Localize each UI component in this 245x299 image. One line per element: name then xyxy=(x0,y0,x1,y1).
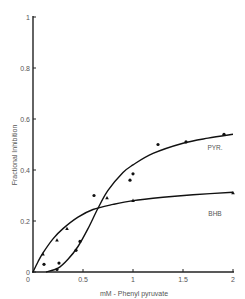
y-tick-label: 0.2 xyxy=(20,218,30,225)
x-axis-label: mM - Phenyl pyruvate xyxy=(100,290,168,298)
x-tick-label: 1.5 xyxy=(178,276,188,283)
y-tick-label: 0 xyxy=(26,269,30,276)
circle-marker xyxy=(222,133,225,136)
triangle-marker xyxy=(55,238,59,241)
y-tick-label: 0.8 xyxy=(20,65,30,72)
circle-marker xyxy=(92,194,95,197)
circle-marker xyxy=(184,140,187,143)
x-tick-label: 0.5 xyxy=(78,276,88,283)
circle-marker xyxy=(57,261,60,264)
triangle-marker xyxy=(105,196,109,199)
circle-marker xyxy=(156,143,159,146)
data-markers xyxy=(41,133,235,271)
circle-marker xyxy=(74,249,77,252)
y-axis-label: Fractional Inhibition xyxy=(11,125,18,186)
y-tick-label: 1 xyxy=(26,14,30,21)
fitted-curves xyxy=(33,134,233,272)
x-tick-label: 1 xyxy=(131,276,135,283)
y-tick-label: 0.4 xyxy=(20,167,30,174)
circle-marker xyxy=(128,179,131,182)
chart: 00.20.40.60.8100.511.52 mM - Phenyl pyru… xyxy=(0,0,245,299)
series-label-pyr: PYR. xyxy=(207,144,222,151)
circle-marker xyxy=(78,240,81,243)
series-label-bhb: BHB xyxy=(208,210,221,217)
circle-marker xyxy=(131,172,134,175)
x-tick-label: 2 xyxy=(231,276,235,283)
x-tick-label: 0 xyxy=(26,276,30,283)
circle-marker xyxy=(55,268,58,271)
circle-marker xyxy=(42,263,45,266)
axes: 00.20.40.60.8100.511.52 xyxy=(20,14,235,284)
y-tick-label: 0.6 xyxy=(20,116,30,123)
curve-pyr xyxy=(46,134,233,272)
curve-bhb xyxy=(33,192,233,272)
